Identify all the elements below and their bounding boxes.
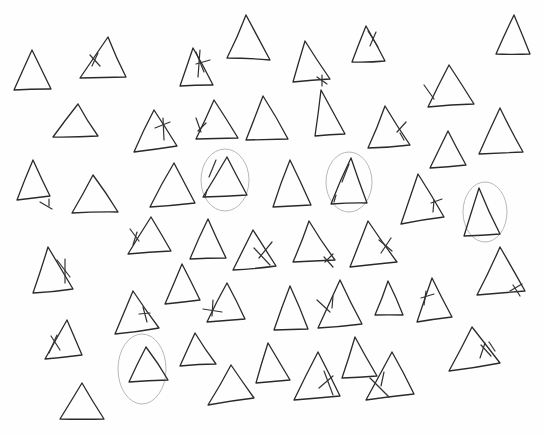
triangle-29 xyxy=(350,221,397,267)
cross-mark-stroke xyxy=(196,60,210,64)
hand-drawn-triangles-drawing xyxy=(0,0,544,435)
circle-mark xyxy=(201,149,249,211)
circle-mark xyxy=(463,182,507,242)
triangle-30 xyxy=(33,247,73,293)
triangle-24 xyxy=(464,188,500,236)
triangle-10 xyxy=(196,100,238,139)
triangle-11 xyxy=(246,96,288,140)
cross-mark-stroke xyxy=(40,202,52,209)
scanned-sheet xyxy=(0,0,544,435)
triangle-40 xyxy=(129,347,168,382)
triangle-8 xyxy=(53,104,98,137)
triangle-37 xyxy=(375,281,403,315)
triangle-31 xyxy=(165,264,200,304)
triangle-42 xyxy=(256,343,290,383)
triangle-44 xyxy=(342,337,377,378)
cross-mark-stroke xyxy=(381,372,384,386)
triangle-15 xyxy=(430,131,466,168)
triangle-28 xyxy=(293,221,335,262)
triangle-38 xyxy=(417,278,452,322)
cross-mark-stroke xyxy=(342,164,349,182)
triangle-35 xyxy=(274,286,308,330)
triangle-4 xyxy=(227,15,270,60)
triangle-21 xyxy=(273,160,311,207)
cross-mark-stroke xyxy=(421,294,434,298)
triangle-32 xyxy=(477,247,525,295)
triangle-18 xyxy=(72,175,118,213)
triangle-7 xyxy=(496,15,530,54)
triangle-16 xyxy=(479,108,523,154)
triangle-26 xyxy=(190,219,226,259)
triangle-41 xyxy=(180,333,216,366)
triangle-1 xyxy=(14,50,51,90)
cross-mark-stroke xyxy=(254,248,270,265)
triangle-36 xyxy=(318,280,362,328)
triangle-23 xyxy=(401,174,444,224)
triangle-14 xyxy=(428,65,474,107)
triangle-33 xyxy=(115,291,159,334)
cross-marks-layer xyxy=(40,31,522,397)
triangle-43 xyxy=(449,327,500,371)
triangle-2 xyxy=(80,37,126,78)
triangle-5 xyxy=(293,41,330,82)
cross-mark-stroke xyxy=(57,260,70,277)
cross-mark-stroke xyxy=(212,300,213,316)
circle-mark xyxy=(118,334,166,404)
cross-mark-stroke xyxy=(424,85,434,99)
triangle-13 xyxy=(368,106,410,148)
cross-mark-stroke xyxy=(209,160,216,177)
triangle-19 xyxy=(150,163,195,207)
triangle-48 xyxy=(60,383,104,419)
triangle-17 xyxy=(17,160,50,200)
triangle-9 xyxy=(134,110,177,152)
triangle-12 xyxy=(315,90,345,136)
triangles-layer xyxy=(14,15,530,419)
triangle-39 xyxy=(45,320,82,359)
cross-mark-stroke xyxy=(431,199,442,203)
cross-mark-stroke xyxy=(163,118,164,140)
triangle-45 xyxy=(208,365,254,405)
